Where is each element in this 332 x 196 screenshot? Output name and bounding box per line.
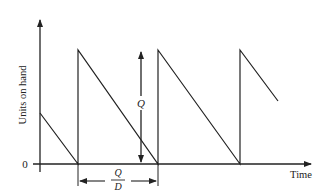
- y-axis-label: Units on hand: [17, 65, 28, 125]
- inventory-level-line: [40, 50, 278, 164]
- x-axis-label: Time: [290, 169, 312, 180]
- order-quantity-label: Q: [137, 97, 145, 109]
- cycle-length-denominator: D: [113, 181, 122, 192]
- origin-label: 0: [22, 158, 28, 170]
- cycle-length-numerator: Q: [114, 167, 122, 178]
- inventory-sawtooth-diagram: 0 Units on hand Time Q Q D: [0, 0, 332, 196]
